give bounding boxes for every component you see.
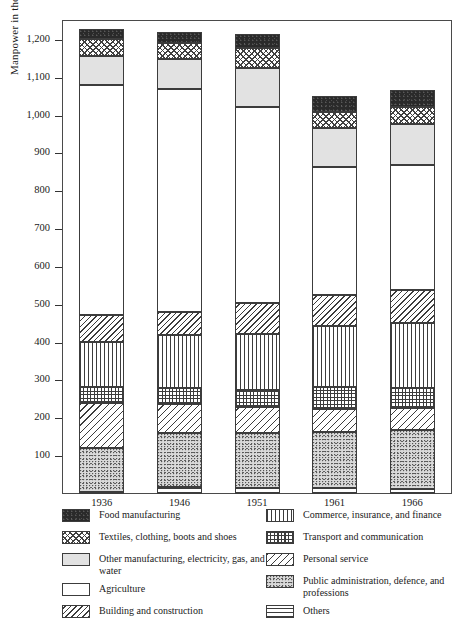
y-tick-label: 500: [2, 299, 50, 310]
segment-1946-commerce-insurance-and-finance[interactable]: [157, 335, 202, 388]
segment-1966-commerce-insurance-and-finance[interactable]: [390, 323, 435, 388]
x-axis-label-1966: 1966: [382, 497, 442, 508]
legend-swatch-icon: [266, 605, 294, 618]
segment-1946-building-and-construction[interactable]: [157, 312, 202, 335]
segment-1951-agriculture[interactable]: [235, 107, 280, 303]
segment-1946-others[interactable]: [157, 487, 202, 494]
segment-1966-food-manufacturing[interactable]: [390, 90, 435, 107]
segment-1951-personal-service[interactable]: [235, 407, 280, 433]
segment-1951-others[interactable]: [235, 488, 280, 494]
segment-1961-public-administration-defence-and-professions[interactable]: [312, 432, 357, 488]
segment-1936-textiles-clothing-boots-and-shoes[interactable]: [79, 39, 124, 56]
segment-1961-personal-service[interactable]: [312, 409, 357, 432]
segment-1946-public-administration-defence-and-professions[interactable]: [157, 433, 202, 487]
legend-swatch-icon: [266, 575, 294, 588]
chart-legend: Food manufacturingTextiles, clothing, bo…: [0, 508, 463, 620]
segment-1936-building-and-construction[interactable]: [79, 315, 124, 342]
segment-1936-personal-service[interactable]: [79, 403, 124, 448]
legend-label: Others: [303, 604, 462, 617]
legend-swatch-icon: [62, 531, 90, 544]
legend-item-building-and-construction[interactable]: Building and construction: [62, 604, 272, 621]
segment-1936-others[interactable]: [79, 492, 124, 494]
legend-swatch-icon: [62, 509, 90, 522]
bar-1951[interactable]: [235, 21, 280, 494]
legend-item-other-manufacturing-electricity-gas-and-water[interactable]: Other manufacturing, electricity, gas, a…: [62, 552, 272, 577]
legend-label: Commerce, insurance, and finance: [303, 508, 462, 521]
segment-1936-public-administration-defence-and-professions[interactable]: [79, 448, 124, 492]
segment-1936-commerce-insurance-and-finance[interactable]: [79, 342, 124, 387]
segment-1946-food-manufacturing[interactable]: [157, 32, 202, 43]
legend-item-agriculture[interactable]: Agriculture: [62, 582, 272, 599]
legend-item-textiles-clothing-boots-and-shoes[interactable]: Textiles, clothing, boots and shoes: [62, 530, 272, 547]
legend-item-commerce-insurance-and-finance[interactable]: Commerce, insurance, and finance: [266, 508, 462, 525]
segment-1966-building-and-construction[interactable]: [390, 290, 435, 323]
bar-1966[interactable]: [390, 21, 435, 494]
segment-1951-textiles-clothing-boots-and-shoes[interactable]: [235, 48, 280, 69]
segment-1951-food-manufacturing[interactable]: [235, 34, 280, 48]
legend-label: Textiles, clothing, boots and shoes: [99, 530, 272, 543]
segment-1961-other-manufacturing-electricity-gas-and-water[interactable]: [312, 128, 357, 168]
y-tick-label: 900: [2, 147, 50, 158]
legend-swatch-icon: [62, 583, 90, 596]
legend-label: Agriculture: [99, 582, 272, 595]
legend-column-left: Food manufacturingTextiles, clothing, bo…: [62, 508, 272, 624]
segment-1951-commerce-insurance-and-finance[interactable]: [235, 334, 280, 390]
y-tick-label: 800: [2, 185, 50, 196]
x-axis-label-1946: 1946: [149, 497, 209, 508]
y-tick-label: 200: [2, 412, 50, 423]
segment-1951-other-manufacturing-electricity-gas-and-water[interactable]: [235, 68, 280, 107]
segment-1961-agriculture[interactable]: [312, 167, 357, 295]
legend-swatch-icon: [266, 553, 294, 566]
legend-item-public-administration-defence-and-professions[interactable]: Public administration, defence, and prof…: [266, 574, 462, 599]
segment-1961-others[interactable]: [312, 488, 357, 494]
segment-1966-transport-and-communication[interactable]: [390, 388, 435, 408]
segment-1946-textiles-clothing-boots-and-shoes[interactable]: [157, 43, 202, 59]
legend-label: Food manufacturing: [99, 508, 272, 521]
segment-1946-personal-service[interactable]: [157, 404, 202, 434]
segment-1936-agriculture[interactable]: [79, 85, 124, 315]
segment-1961-food-manufacturing[interactable]: [312, 96, 357, 112]
legend-label: Building and construction: [99, 604, 272, 617]
segment-1951-transport-and-communication[interactable]: [235, 390, 280, 407]
segment-1966-other-manufacturing-electricity-gas-and-water[interactable]: [390, 124, 435, 166]
segment-1946-agriculture[interactable]: [157, 89, 202, 312]
segment-1946-transport-and-communication[interactable]: [157, 388, 202, 404]
segment-1966-agriculture[interactable]: [390, 165, 435, 290]
legend-item-food-manufacturing[interactable]: Food manufacturing: [62, 508, 272, 525]
y-tick-label: 600: [2, 261, 50, 272]
legend-label: Other manufacturing, electricity, gas, a…: [99, 552, 272, 577]
legend-swatch-icon: [62, 553, 90, 566]
segment-1961-transport-and-communication[interactable]: [312, 387, 357, 409]
y-tick-label: 100: [2, 450, 50, 461]
segment-1936-other-manufacturing-electricity-gas-and-water[interactable]: [79, 56, 124, 84]
stacked-bar-chart: Manpower in thousands 100200300400500600…: [0, 0, 463, 624]
y-tick-label: 700: [2, 223, 50, 234]
segment-1961-commerce-insurance-and-finance[interactable]: [312, 326, 357, 387]
y-tick-label: 300: [2, 374, 50, 385]
segment-1966-public-administration-defence-and-professions[interactable]: [390, 430, 435, 489]
legend-item-others[interactable]: Others: [266, 604, 462, 621]
segment-1936-food-manufacturing[interactable]: [79, 29, 124, 40]
segment-1961-building-and-construction[interactable]: [312, 295, 357, 326]
bar-1936[interactable]: [79, 21, 124, 494]
bar-1961[interactable]: [312, 21, 357, 494]
segment-1936-transport-and-communication[interactable]: [79, 387, 124, 403]
x-axis-label-1936: 1936: [72, 497, 132, 508]
segment-1946-other-manufacturing-electricity-gas-and-water[interactable]: [157, 59, 202, 89]
bar-1946[interactable]: [157, 21, 202, 494]
segment-1966-personal-service[interactable]: [390, 408, 435, 430]
legend-swatch-icon: [62, 605, 90, 618]
legend-swatch-icon: [266, 509, 294, 522]
segment-1966-textiles-clothing-boots-and-shoes[interactable]: [390, 107, 435, 124]
segment-1961-textiles-clothing-boots-and-shoes[interactable]: [312, 112, 357, 128]
legend-label: Public administration, defence, and prof…: [303, 574, 462, 599]
segment-1951-public-administration-defence-and-professions[interactable]: [235, 433, 280, 488]
legend-item-personal-service[interactable]: Personal service: [266, 552, 462, 569]
plot-area: [63, 21, 451, 494]
segment-1966-others[interactable]: [390, 489, 435, 494]
legend-item-transport-and-communication[interactable]: Transport and communication: [266, 530, 462, 547]
legend-swatch-icon: [266, 531, 294, 544]
segment-1951-building-and-construction[interactable]: [235, 303, 280, 334]
y-tick-label: 1,100: [2, 72, 50, 83]
y-tick-label: 1,000: [2, 110, 50, 121]
